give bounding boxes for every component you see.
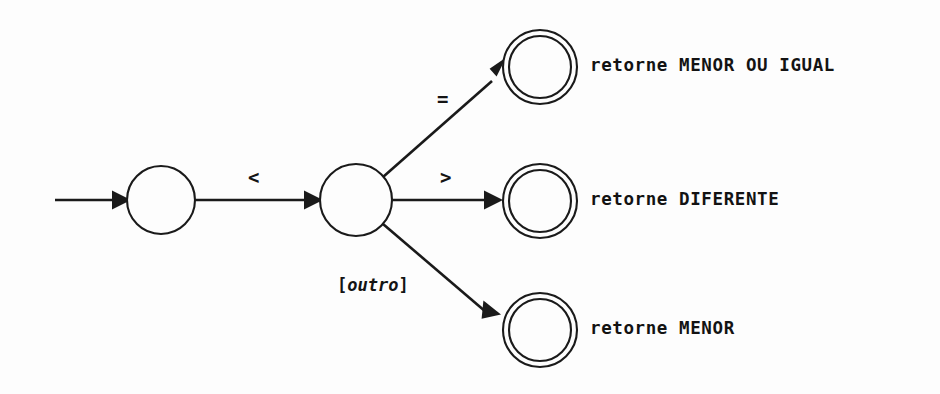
- state-s4-accepting[interactable]: [503, 293, 577, 367]
- state-s1[interactable]: [320, 164, 392, 236]
- edge-label-outro: [outro]: [337, 277, 409, 294]
- outro-bracket-open: [: [337, 275, 347, 295]
- transition-edge-outro: [383, 224, 501, 319]
- edge-label-lt: <: [248, 168, 259, 187]
- state-s3-accepting[interactable]: [503, 164, 577, 238]
- arrowhead-gt: [484, 191, 503, 210]
- transition-edge-gt: [392, 191, 503, 210]
- state-s2-accepting[interactable]: [503, 30, 577, 104]
- state-s0[interactable]: [127, 166, 195, 234]
- transition-edge-eq: [383, 58, 506, 178]
- initial-arrow: [55, 191, 131, 210]
- transition-edge-lt: [196, 191, 323, 210]
- action-label-menor-ou-igual: retorne MENOR OU IGUAL: [590, 57, 835, 75]
- edge-label-eq: =: [437, 90, 448, 109]
- outro-word: outro: [347, 275, 398, 295]
- state-machine-diagram: < = > [outro] retorne MENOR OU IGUAL ret…: [0, 0, 940, 394]
- action-label-menor: retorne MENOR: [590, 320, 735, 338]
- edge-label-gt: >: [440, 168, 451, 187]
- action-label-diferente: retorne DIFERENTE: [590, 191, 779, 209]
- outro-bracket-close: ]: [398, 275, 408, 295]
- arrowhead-outro: [482, 301, 501, 319]
